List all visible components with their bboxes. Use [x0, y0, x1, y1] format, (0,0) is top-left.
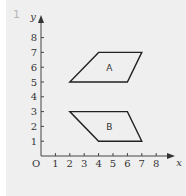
y-tick-label: 1 — [31, 136, 37, 147]
shape-a-label: A — [106, 63, 113, 73]
origin-label: O — [32, 158, 40, 169]
y-tick-label: 8 — [31, 32, 37, 43]
coordinate-grid: 1234567812345678OxyAB — [0, 0, 186, 196]
y-tick-label: 3 — [31, 106, 37, 117]
y-tick-label: 5 — [31, 77, 37, 88]
x-axis-label: x — [176, 157, 182, 168]
x-tick-label: 8 — [153, 158, 159, 169]
y-tick-label: 2 — [31, 121, 37, 132]
x-tick-label: 5 — [110, 158, 116, 169]
x-tick-label: 2 — [67, 158, 73, 169]
y-axis-label: y — [29, 11, 36, 22]
x-tick-label: 7 — [139, 158, 145, 169]
y-tick-label: 4 — [31, 91, 37, 102]
x-tick-label: 3 — [81, 158, 87, 169]
y-tick-label: 6 — [31, 62, 37, 73]
shape-b-label: B — [106, 122, 112, 132]
x-tick-label: 4 — [95, 158, 101, 169]
x-axis-arrow-icon — [167, 153, 175, 159]
y-tick-label: 7 — [31, 47, 37, 58]
x-tick-label: 6 — [124, 158, 130, 169]
x-tick-label: 1 — [52, 158, 58, 169]
y-axis-arrow-icon — [38, 15, 44, 23]
